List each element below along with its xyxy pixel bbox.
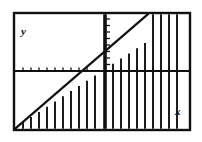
- x-axis-label: x: [175, 106, 181, 117]
- plot-canvas: [0, 0, 202, 142]
- y-axis-label: y: [21, 26, 26, 37]
- riemann-sum-figure: y x: [0, 0, 202, 142]
